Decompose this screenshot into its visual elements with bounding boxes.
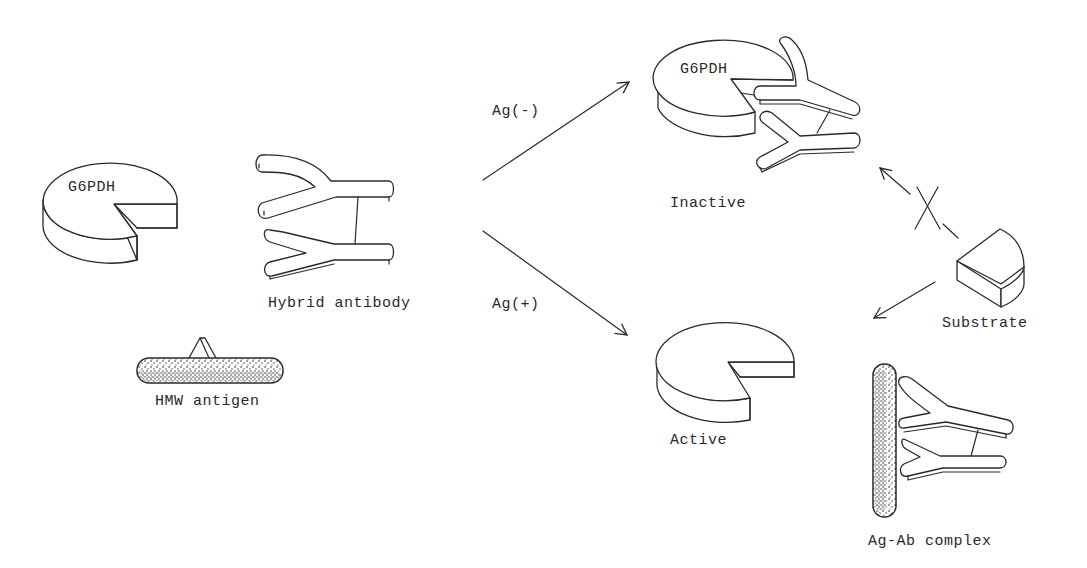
hybrid-antibody-icon [256, 155, 394, 279]
hmw-antigen-label: HMW antigen [155, 394, 260, 409]
hmw-antigen-icon [137, 338, 283, 383]
diagram-canvas [0, 0, 1087, 568]
hybrid-antibody-label: Hybrid antibody [268, 296, 411, 311]
active-enzyme-icon [656, 323, 794, 423]
substrate-icon [957, 229, 1024, 307]
inactive-label: Inactive [670, 196, 746, 211]
inactive-enzyme-complex-icon [653, 37, 860, 172]
substrate-label: Substrate [942, 316, 1028, 331]
arrow-ag-negative [483, 82, 629, 180]
ag-positive-label: Ag(+) [492, 297, 540, 312]
ag-ab-complex-label: Ag-Ab complex [868, 534, 992, 549]
arrow-ag-positive [483, 231, 627, 335]
g6pdh-label: G6PDH [68, 180, 116, 195]
active-label: Active [670, 433, 727, 448]
ag-negative-label: Ag(-) [492, 104, 540, 119]
arrow-substrate-to-active [874, 282, 935, 318]
blocked-arrow-to-inactive [880, 168, 958, 238]
inactive-g6pdh-label: G6PDH [680, 62, 728, 77]
ag-ab-complex-icon [873, 364, 1013, 517]
